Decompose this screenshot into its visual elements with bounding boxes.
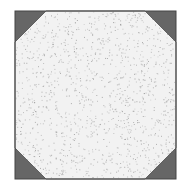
- stippled-octagon: [15, 11, 176, 179]
- diagram-canvas: [0, 0, 186, 185]
- octagon-in-square-figure: [0, 0, 186, 185]
